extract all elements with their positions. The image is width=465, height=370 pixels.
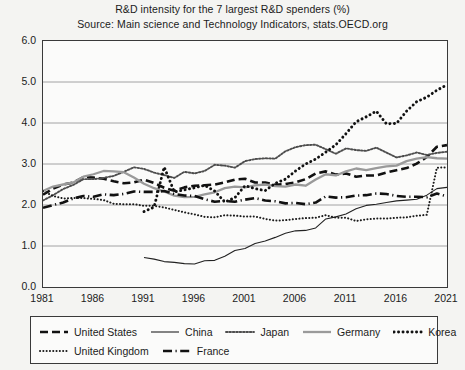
legend-swatch-icon (162, 346, 192, 356)
x-tick-label: 1991 (131, 292, 154, 304)
page-title: R&D intensity for the 7 largest R&D spen… (0, 2, 465, 17)
plot-svg (43, 41, 447, 287)
plot-area (42, 40, 448, 288)
x-tick-label: 1986 (81, 292, 104, 304)
x-tick-label: 2021 (434, 292, 457, 304)
legend-label: Korea (428, 326, 456, 338)
legend-row: United StatesChinaJapanGermanyKorea (39, 322, 429, 341)
legend-swatch-icon (150, 327, 180, 337)
legend-swatch-icon (302, 327, 332, 337)
legend-item-france[interactable]: France (162, 345, 230, 357)
legend-item-germany[interactable]: Germany (302, 326, 380, 338)
chart-legend: United StatesChinaJapanGermanyKoreaUnite… (30, 316, 438, 364)
chart-source-line: Source: Main science and Technology Indi… (0, 17, 465, 32)
legend-swatch-icon (393, 327, 423, 337)
legend-item-united-states[interactable]: United States (39, 326, 137, 338)
chart-title-block: R&D intensity for the 7 largest R&D spen… (0, 2, 465, 32)
legend-swatch-icon (225, 327, 255, 337)
y-tick-label: 5.0 (0, 75, 36, 87)
x-tick-label: 1996 (182, 292, 205, 304)
y-tick-label: 0.0 (0, 280, 36, 292)
x-tick-label: 2016 (384, 292, 407, 304)
legend-label: China (185, 326, 212, 338)
legend-label: United Kingdom (74, 345, 149, 357)
legend-label: Japan (260, 326, 289, 338)
y-tick-label: 6.0 (0, 34, 36, 46)
x-tick-label: 2011 (334, 292, 357, 304)
legend-label: Germany (337, 326, 380, 338)
chart-page: R&D intensity for the 7 largest R&D spen… (0, 0, 465, 370)
legend-item-korea[interactable]: Korea (393, 326, 456, 338)
series-line-japan (43, 145, 447, 201)
legend-item-japan[interactable]: Japan (225, 326, 289, 338)
y-tick-label: 4.0 (0, 116, 36, 128)
legend-swatch-icon (39, 346, 69, 356)
legend-row: United KingdomFrance (39, 341, 429, 360)
x-tick-label: 2001 (232, 292, 255, 304)
series-line-china (144, 187, 447, 264)
y-tick-label: 1.0 (0, 239, 36, 251)
legend-item-china[interactable]: China (150, 326, 212, 338)
series-line-korea (144, 85, 447, 212)
y-tick-label: 2.0 (0, 198, 36, 210)
x-tick-label: 1981 (30, 292, 53, 304)
legend-item-united-kingdom[interactable]: United Kingdom (39, 345, 149, 357)
legend-label: France (197, 345, 230, 357)
legend-swatch-icon (39, 327, 69, 337)
y-tick-label: 3.0 (0, 157, 36, 169)
x-tick-label: 2006 (283, 292, 306, 304)
legend-label: United States (74, 326, 137, 338)
